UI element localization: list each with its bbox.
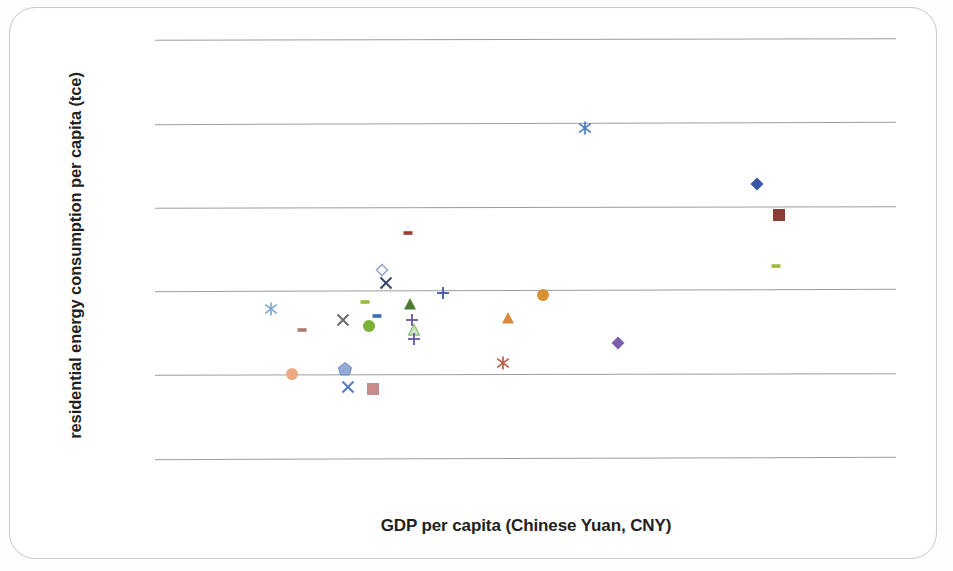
data-point-square[interactable] xyxy=(770,206,788,224)
data-point-dash[interactable] xyxy=(399,224,417,242)
data-point-asterisk[interactable] xyxy=(576,119,594,137)
data-point-dash[interactable] xyxy=(293,321,311,339)
data-point-asterisk[interactable] xyxy=(494,354,512,372)
scatter-chart: residential energy consumption per capit… xyxy=(0,0,953,571)
gridline xyxy=(155,373,896,376)
data-point-pentagon[interactable] xyxy=(336,360,354,378)
gridline xyxy=(155,122,896,125)
gridline xyxy=(155,457,896,460)
data-point-circle[interactable] xyxy=(283,365,301,383)
data-point-cross-x[interactable] xyxy=(339,378,357,396)
data-point-diamond[interactable] xyxy=(609,334,627,352)
data-point-dash[interactable] xyxy=(767,257,785,275)
gridline xyxy=(155,289,896,292)
data-point-diamond[interactable] xyxy=(748,175,766,193)
x-axis-title: GDP per capita (Chinese Yuan, CNY) xyxy=(156,516,896,536)
data-point-square[interactable] xyxy=(364,380,382,398)
data-point-triangle[interactable] xyxy=(499,309,517,327)
scanned-chart-page: residential energy consumption per capit… xyxy=(0,0,953,571)
gridline xyxy=(155,38,896,41)
data-point-plus[interactable] xyxy=(434,284,452,302)
data-point-asterisk[interactable] xyxy=(262,300,280,318)
data-point-circle[interactable] xyxy=(534,286,552,304)
data-point-cross-x[interactable] xyxy=(377,274,395,292)
y-axis-title: residential energy consumption per capit… xyxy=(66,21,85,491)
data-point-plus[interactable] xyxy=(405,330,423,348)
data-point-circle[interactable] xyxy=(360,317,378,335)
data-point-cross-x[interactable] xyxy=(334,311,352,329)
